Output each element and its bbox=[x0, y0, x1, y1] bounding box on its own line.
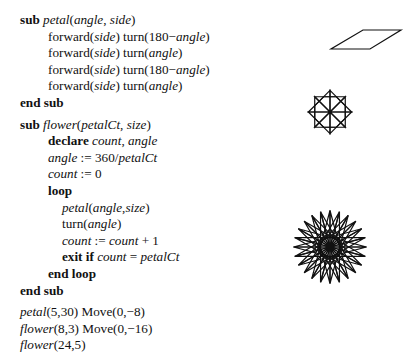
petal-rhombus bbox=[330, 90, 345, 127]
petal-rhombus bbox=[308, 112, 345, 127]
flower-center-dot bbox=[328, 110, 332, 114]
petal-rhombus bbox=[315, 97, 330, 134]
petal-rhombus bbox=[315, 90, 330, 127]
parallelogram-petal bbox=[331, 30, 401, 49]
turtle-graphics-figures bbox=[0, 0, 417, 364]
flower-8-petals bbox=[308, 90, 351, 133]
petal-rhombus bbox=[315, 112, 352, 127]
flower-center-dot bbox=[326, 243, 335, 252]
petal-rhombus bbox=[330, 97, 345, 134]
flower-24-petals bbox=[294, 211, 367, 284]
petal-rhombus bbox=[315, 97, 352, 112]
petal-rhombus bbox=[308, 97, 345, 112]
